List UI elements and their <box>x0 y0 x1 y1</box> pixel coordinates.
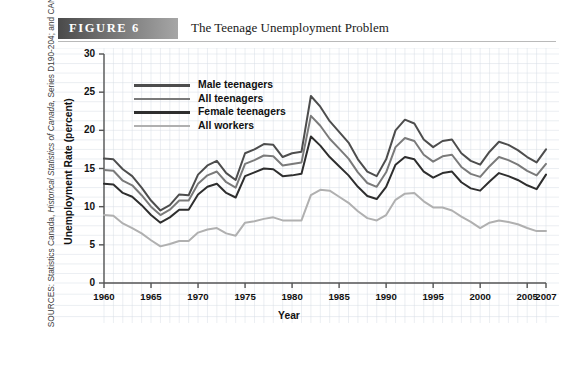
legend-item-label: All teenagers <box>198 92 263 106</box>
x-axis-tick-label: 1985 <box>319 291 359 302</box>
y-axis-tick-label: 15 <box>73 163 95 174</box>
x-axis-title: Year <box>229 310 349 321</box>
figure-number-banner: FIGURE 6 <box>58 18 178 39</box>
legend-color-swatch <box>134 111 190 114</box>
figure-container: FIGURE 6 The Teenage Unemployment Proble… <box>0 0 575 369</box>
figure-number-label: FIGURE 6 <box>58 18 178 39</box>
x-axis-tick-label: 1975 <box>225 291 265 302</box>
y-axis-tick-label: 0 <box>73 277 95 288</box>
legend-color-swatch <box>134 125 190 128</box>
y-axis-tick-label: 10 <box>73 201 95 212</box>
y-axis-tick-label: 5 <box>73 239 95 250</box>
x-axis-tick-label: 2007 <box>526 291 566 302</box>
x-axis-tick-label: 2000 <box>460 291 500 302</box>
legend-color-swatch <box>134 84 190 87</box>
chart-series-lines <box>54 48 559 323</box>
chart-plot-area: 051015202530 196019651970197519801985199… <box>54 48 559 323</box>
legend-item-label: All workers <box>198 119 254 133</box>
x-axis-tick-label: 1960 <box>84 291 124 302</box>
x-axis-tick-label: 1990 <box>366 291 406 302</box>
y-axis-tick-label: 30 <box>73 48 95 59</box>
y-axis-tick-label: 25 <box>73 86 95 97</box>
y-axis-title: Unemployment Rate (percent) <box>63 62 74 282</box>
figure-header: FIGURE 6 The Teenage Unemployment Proble… <box>58 18 558 42</box>
y-axis-tick-label: 20 <box>73 124 95 135</box>
legend-color-swatch <box>134 98 190 101</box>
x-axis-tick-label: 1980 <box>272 291 312 302</box>
x-axis-tick-label: 1970 <box>178 291 218 302</box>
legend-item-label: Female teenagers <box>198 105 286 119</box>
legend-item-label: Male teenagers <box>198 78 273 92</box>
header-divider <box>58 41 556 42</box>
x-axis-tick-label: 1995 <box>413 291 453 302</box>
figure-title: The Teenage Unemployment Problem <box>191 20 389 36</box>
x-axis-tick-label: 1965 <box>131 291 171 302</box>
